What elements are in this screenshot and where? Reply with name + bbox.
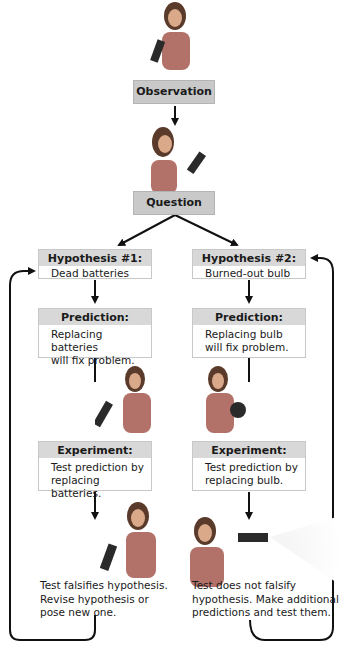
- person-replacing-batteries-illustration: [95, 365, 165, 440]
- hypothesis-1-box: Hypothesis #1: Dead batteries: [38, 249, 152, 279]
- result-1-line3: pose new one.: [40, 606, 168, 620]
- prediction-1-box: Prediction: Replacing batterieswill fix …: [38, 308, 152, 358]
- person-questioning-illustration: [135, 124, 215, 194]
- person-observing-flashlight-illustration: [140, 0, 210, 72]
- result-2-line3: predictions and test them.: [192, 606, 339, 620]
- prediction-2-box: Prediction: Replacing bulbwill fix probl…: [192, 308, 306, 358]
- result-1-line2: Revise hypothesis or: [40, 593, 168, 607]
- experiment-1-box: Experiment: Test prediction byreplacing …: [38, 441, 152, 491]
- prediction-1-title: Prediction:: [39, 309, 151, 325]
- hypothesis-2-text: Burned-out bulb: [193, 266, 305, 282]
- prediction-1-line1: Replacing batteries: [51, 328, 145, 354]
- experiment-1-line1: Test prediction by: [51, 461, 145, 474]
- result-2-line2: hypothesis. Make additional: [192, 593, 339, 607]
- person-replacing-bulb-illustration: [200, 365, 260, 440]
- experiment-1-title: Experiment:: [39, 442, 151, 458]
- experiment-2-box: Experiment: Test prediction byreplacing …: [192, 441, 306, 491]
- person-with-working-flashlight-illustration: [180, 515, 343, 587]
- observation-box: Observation: [133, 80, 215, 104]
- result-2-line1: Test does not falsify: [192, 579, 339, 593]
- result-2-caption: Test does not falsify hypothesis. Make a…: [192, 579, 339, 620]
- experiment-2-title: Experiment:: [193, 442, 305, 458]
- hypothesis-2-box: Hypothesis #2: Burned-out bulb: [192, 249, 306, 279]
- prediction-1-line2: will fix problem.: [51, 354, 145, 367]
- question-label: Question: [146, 196, 202, 209]
- hypothesis-1-text: Dead batteries: [39, 266, 151, 282]
- person-with-dead-flashlight-illustration: [100, 500, 170, 580]
- result-1-caption: Test falsifies hypothesis. Revise hypoth…: [40, 579, 168, 620]
- observation-label: Observation: [136, 85, 212, 98]
- experiment-2-line1: Test prediction by: [205, 461, 299, 474]
- prediction-2-line2: will fix problem.: [205, 341, 299, 354]
- hypothesis-1-title: Hypothesis #1:: [39, 250, 151, 266]
- prediction-2-line1: Replacing bulb: [205, 328, 299, 341]
- prediction-2-title: Prediction:: [193, 309, 305, 325]
- experiment-1-line2: replacing batteries.: [51, 474, 145, 500]
- hypothesis-2-title: Hypothesis #2:: [193, 250, 305, 266]
- experiment-2-line2: replacing bulb.: [205, 474, 299, 487]
- question-box: Question: [133, 191, 215, 215]
- result-1-line1: Test falsifies hypothesis.: [40, 579, 168, 593]
